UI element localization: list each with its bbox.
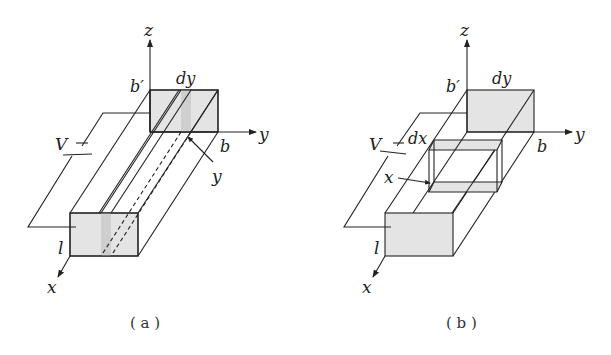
wire-front <box>28 156 76 227</box>
label-b-prime: b′ <box>446 77 460 96</box>
front-face <box>385 213 453 256</box>
figure-canvas: z y x b′ b dy V l y ( a ) <box>0 0 611 355</box>
label-b: b <box>220 137 230 156</box>
slice-bottom <box>429 182 502 192</box>
caption-a: ( a ) <box>130 314 160 332</box>
wire-back <box>82 113 150 146</box>
label-l: l <box>374 238 379 258</box>
x-axis <box>58 256 70 277</box>
label-x-axis: x <box>362 277 372 297</box>
panel-a-labels: z y x b′ b dy V l y ( a ) <box>47 20 269 332</box>
label-l: l <box>58 238 63 258</box>
label-dx: dx <box>408 129 427 148</box>
label-b: b <box>537 137 547 156</box>
label-y-pointer: y <box>211 166 222 186</box>
label-x-axis: x <box>47 277 57 297</box>
panel-b-labels: z y x b′ b dy dx V l x ( b ) <box>362 20 585 332</box>
label-y-axis: y <box>574 124 585 144</box>
battery-plate-long <box>63 154 92 155</box>
back-face <box>467 90 534 132</box>
label-V: V <box>55 134 69 154</box>
slice-top <box>429 140 502 150</box>
label-z: z <box>143 20 154 40</box>
label-x-pointer: x <box>384 167 394 187</box>
x-pointer-line <box>398 178 430 183</box>
label-dy: dy <box>176 69 196 88</box>
label-V: V <box>369 134 383 154</box>
label-dy: dy <box>492 69 512 88</box>
label-y-axis: y <box>258 124 269 144</box>
strip-front <box>101 213 111 256</box>
caption-b: ( b ) <box>446 314 477 332</box>
label-z: z <box>459 20 470 40</box>
strip-back <box>181 90 191 132</box>
x-axis <box>373 256 385 277</box>
battery-plate-long <box>380 151 406 154</box>
label-b-prime: b′ <box>130 77 144 96</box>
